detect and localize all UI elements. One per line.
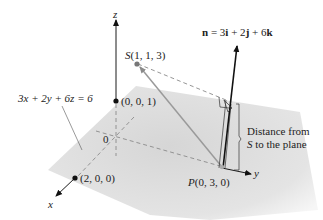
- plane-equation-label: 3x + 2y + 6z = 6: [17, 92, 93, 104]
- x-axis: [56, 178, 75, 196]
- distance-label-line2: S to the plane: [247, 138, 307, 150]
- point-s-label: S(1, 1, 3): [125, 49, 166, 62]
- point-s: [134, 61, 139, 66]
- z-axis-label: z: [112, 8, 118, 20]
- point-p-label: P(0, 3, 0): [187, 176, 230, 189]
- x-axis-label: x: [47, 198, 53, 210]
- point-s-coords: (1, 1, 3): [131, 49, 166, 62]
- point-p-coords: (0, 3, 0): [195, 176, 230, 189]
- plane-surface: [48, 86, 318, 220]
- normal-vector-label: n = 3i + 2j + 6k: [202, 26, 274, 38]
- z-intercept-label: (0, 0, 1): [121, 95, 156, 108]
- x-intercept-label: (2, 0, 0): [80, 172, 115, 185]
- point-z-intercept: [113, 98, 118, 103]
- point-p: [220, 165, 224, 169]
- plane-label-leader: [62, 106, 82, 150]
- point-x-intercept: [72, 175, 77, 180]
- distance-label-line1: Distance from: [247, 125, 310, 137]
- distance-to-plane-diagram: z x y 0 (0, 0, 1) (2, 0, 0) S(1, 1, 3) P…: [0, 0, 323, 220]
- origin-label: 0: [103, 133, 109, 145]
- y-axis-label: y: [253, 167, 259, 179]
